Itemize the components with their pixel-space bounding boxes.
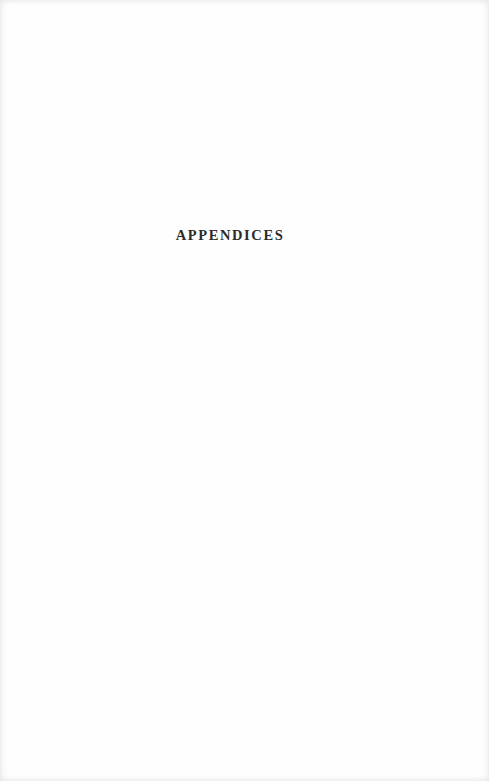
- book-page: APPENDICES: [0, 0, 489, 781]
- page-heading: APPENDICES: [176, 227, 285, 244]
